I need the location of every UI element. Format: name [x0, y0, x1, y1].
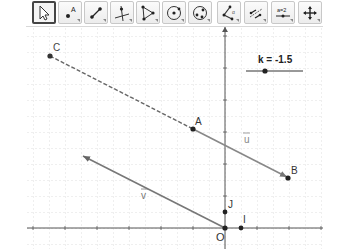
- svg-text:a=2: a=2: [277, 7, 286, 13]
- polygon-tool-button[interactable]: [136, 1, 160, 24]
- submenu-indicator-icon: [155, 19, 158, 22]
- toolbar: A α a=2: [0, 0, 339, 26]
- submenu-indicator-icon: [263, 19, 266, 22]
- move-graphics-view-tool-button[interactable]: [298, 1, 322, 24]
- reflect-tool-button[interactable]: [244, 1, 268, 24]
- svg-text:O: O: [216, 231, 225, 243]
- slider-tool-button[interactable]: a=2: [271, 1, 295, 24]
- submenu-indicator-icon: [317, 19, 320, 22]
- submenu-indicator-icon: [129, 19, 132, 22]
- angle-tool-button[interactable]: α: [217, 1, 241, 24]
- circle-three-points-tool-button[interactable]: [188, 1, 212, 24]
- svg-text:A: A: [195, 116, 202, 127]
- svg-text:B: B: [291, 165, 298, 176]
- move-tool-button[interactable]: [32, 1, 56, 24]
- submenu-indicator-icon: [207, 19, 210, 22]
- submenu-indicator-icon: [103, 19, 106, 22]
- circle-center-point-tool-button[interactable]: [162, 1, 186, 24]
- svg-text:A: A: [71, 6, 76, 13]
- svg-text:I: I: [243, 214, 246, 225]
- svg-text:u: u: [244, 134, 250, 145]
- point-tool-button[interactable]: A: [58, 1, 82, 24]
- svg-text:J: J: [228, 199, 233, 210]
- svg-text:v: v: [141, 190, 146, 201]
- cursor-arrow-icon: [35, 4, 53, 22]
- submenu-indicator-icon: [77, 19, 80, 22]
- submenu-indicator-icon: [236, 19, 239, 22]
- perpendicular-line-tool-button[interactable]: [110, 1, 134, 24]
- slider-k-label: k = -1.5: [258, 54, 292, 65]
- submenu-indicator-icon: [290, 19, 293, 22]
- svg-text:α: α: [232, 9, 235, 15]
- segment-tool-button[interactable]: [84, 1, 108, 24]
- svg-text:C: C: [53, 42, 60, 53]
- submenu-indicator-icon: [181, 19, 184, 22]
- slider-k-handle: [262, 68, 267, 73]
- vector-u-label: u: [243, 133, 250, 145]
